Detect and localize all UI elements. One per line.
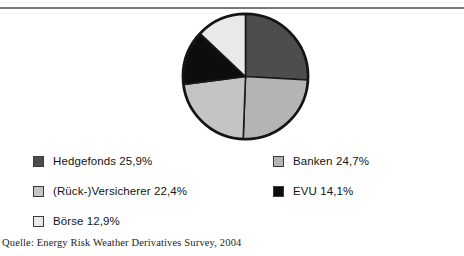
legend-label-banken: Banken 24,7% (293, 155, 369, 168)
legend-item-hedgefonds[interactable]: Hedgefonds 25,9% (33, 146, 263, 176)
cropped-caption-remnant (8, 0, 188, 4)
legend-item-banken[interactable]: Banken 24,7% (273, 146, 458, 176)
legend-swatch-hedgefonds (33, 156, 44, 167)
legend-swatch-evu (273, 186, 284, 197)
pie-slice-banken[interactable] (243, 77, 307, 139)
pie-chart-svg (181, 12, 310, 141)
pie-slice-r-ck-versicherer[interactable] (184, 77, 246, 139)
chart-legend: Hedgefonds 25,9% (Rück-)Versicherer 22,4… (0, 146, 464, 230)
legend-label-boerse: Börse 12,9% (53, 215, 120, 228)
legend-column-left: Hedgefonds 25,9% (Rück-)Versicherer 22,4… (33, 146, 263, 236)
legend-column-right: Banken 24,7% EVU 14,1% (273, 146, 458, 206)
pie-chart-area (0, 10, 464, 146)
legend-item-rueckversicherer[interactable]: (Rück-)Versicherer 22,4% (33, 176, 263, 206)
legend-label-hedgefonds: Hedgefonds 25,9% (53, 155, 152, 168)
legend-swatch-banken (273, 156, 284, 167)
pie-chart (181, 12, 310, 141)
legend-label-rueckversicherer: (Rück-)Versicherer 22,4% (53, 185, 187, 198)
legend-item-boerse[interactable]: Börse 12,9% (33, 206, 263, 236)
legend-label-evu: EVU 14,1% (293, 185, 353, 198)
pie-slice-hedgefonds[interactable] (246, 15, 308, 80)
figure-root: Hedgefonds 25,9% (Rück-)Versicherer 22,4… (0, 0, 464, 256)
source-note: Quelle: Energy Risk Weather Derivatives … (2, 236, 241, 249)
legend-swatch-boerse (33, 216, 44, 227)
legend-item-evu[interactable]: EVU 14,1% (273, 176, 458, 206)
legend-swatch-rueckversicherer (33, 186, 44, 197)
top-horizontal-rule (0, 7, 464, 9)
